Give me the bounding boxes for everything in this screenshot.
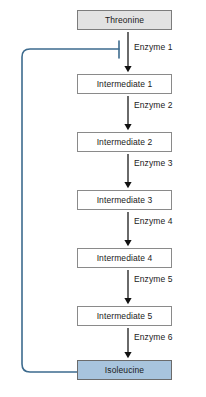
node-layer: Enzyme 1 Enzyme 2 Enzyme 3 Enzyme 4 Enzy… (0, 0, 206, 397)
enzyme-label-5: Enzyme 5 (134, 274, 173, 284)
node-intermediate-1: Intermediate 1 (77, 74, 172, 94)
enzyme-label-6: Enzyme 6 (134, 332, 173, 342)
node-intermediate-2: Intermediate 2 (77, 132, 172, 152)
node-intermediate-4: Intermediate 4 (77, 248, 172, 268)
pathway-diagram: Enzyme 1 Enzyme 2 Enzyme 3 Enzyme 4 Enzy… (0, 0, 206, 397)
node-threonine: Threonine (77, 10, 172, 30)
enzyme-label-3: Enzyme 3 (134, 158, 173, 168)
enzyme-label-4: Enzyme 4 (134, 216, 173, 226)
enzyme-label-1: Enzyme 1 (134, 42, 173, 52)
node-intermediate-5: Intermediate 5 (77, 306, 172, 326)
node-isoleucine: Isoleucine (77, 360, 172, 380)
node-intermediate-3: Intermediate 3 (77, 190, 172, 210)
enzyme-label-2: Enzyme 2 (134, 100, 173, 110)
